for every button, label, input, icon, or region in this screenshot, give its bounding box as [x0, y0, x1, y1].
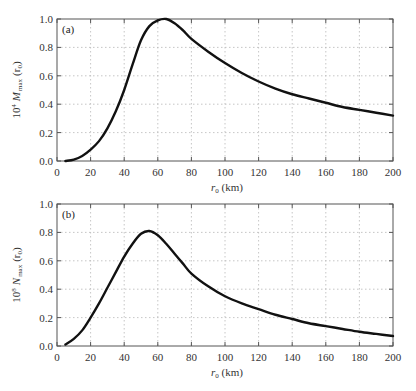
x-tick-label: 160	[318, 166, 335, 178]
y-tick-label: 0.8	[39, 41, 53, 53]
x-tick-label: 120	[250, 351, 267, 363]
x-tick-label: 200	[385, 166, 402, 178]
y-tick-label: 0.2	[39, 312, 53, 324]
series-line-n-max	[65, 231, 393, 345]
ticks: 0204060801001201401601802000.00.20.40.60…	[39, 13, 402, 178]
y-tick-label: 0.2	[39, 127, 53, 139]
y-tick-label: 0.0	[39, 340, 53, 352]
x-tick-label: 200	[385, 351, 402, 363]
x-tick-label: 40	[119, 351, 131, 363]
x-tick-label: 180	[351, 166, 368, 178]
y-tick-label: 0.4	[39, 98, 53, 110]
x-axis-label: r0 (km)	[211, 366, 243, 380]
x-tick-label: 80	[186, 351, 198, 363]
y-axis-label-var: N	[10, 277, 22, 286]
x-tick-label: 60	[152, 166, 164, 178]
x-tick-label: 180	[351, 351, 368, 363]
y-axis-label-exp: 4	[10, 104, 18, 108]
y-axis-label-sub: max	[16, 78, 24, 91]
x-tick-label: 100	[217, 351, 234, 363]
y-tick-label: 0.4	[39, 283, 53, 295]
y-tick-label: 1.0	[39, 198, 53, 210]
y-tick-label: 0.6	[39, 70, 53, 82]
x-tick-label: 20	[85, 166, 97, 178]
x-tick-label: 120	[250, 166, 267, 178]
grid-lines	[57, 19, 393, 161]
x-tick-label: 160	[318, 351, 335, 363]
grid-lines	[57, 204, 393, 346]
y-tick-label: 0.0	[39, 155, 53, 167]
panel-label: (b)	[62, 208, 75, 221]
x-tick-label: 40	[119, 166, 131, 178]
x-axis-label-unit: (km)	[219, 366, 243, 379]
x-tick-label: 80	[186, 166, 198, 178]
y-axis-label: 108Nmax(r0)	[10, 247, 24, 303]
x-tick-label: 140	[284, 351, 301, 363]
y-axis-label: 104Mmax(r0)	[10, 61, 24, 119]
x-tick-label: 140	[284, 166, 301, 178]
ticks: 0204060801001201401601802000.00.20.40.60…	[39, 198, 402, 363]
x-tick-label: 0	[54, 351, 60, 363]
y-axis-label-close: )	[10, 61, 23, 65]
x-tick-label: 0	[54, 166, 60, 178]
series-line-m-max	[65, 19, 393, 161]
y-axis-label-prefix: 10	[10, 291, 22, 303]
y-tick-label: 1.0	[39, 13, 53, 25]
x-tick-label: 100	[217, 166, 234, 178]
y-axis-label-close: )	[10, 247, 23, 251]
panel-b: 0204060801001201401601802000.00.20.40.60…	[10, 198, 402, 380]
x-axis-label: r0 (km)	[211, 181, 243, 195]
figure: 0204060801001201401601802000.00.20.40.60…	[0, 0, 416, 391]
y-axis-label-prefix: 10	[10, 107, 22, 119]
y-tick-label: 0.6	[39, 255, 53, 267]
x-tick-label: 20	[85, 351, 97, 363]
panel-a: 0204060801001201401601802000.00.20.40.60…	[10, 13, 402, 195]
y-axis-label-sub: max	[16, 264, 24, 277]
y-tick-label: 0.8	[39, 226, 53, 238]
y-axis-label-exp: 8	[10, 288, 18, 292]
y-axis-label-var: M	[10, 91, 22, 102]
panel-label: (a)	[62, 23, 75, 36]
x-tick-label: 60	[152, 351, 164, 363]
x-axis-label-unit: (km)	[219, 181, 243, 194]
